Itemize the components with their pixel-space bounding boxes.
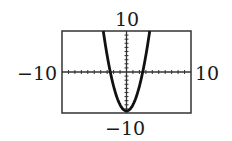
y-min-label: −10 [105, 119, 145, 138]
x-min-label: −10 [17, 64, 57, 83]
x-max-label: 10 [195, 64, 219, 83]
y-max-label: 10 [115, 10, 139, 29]
